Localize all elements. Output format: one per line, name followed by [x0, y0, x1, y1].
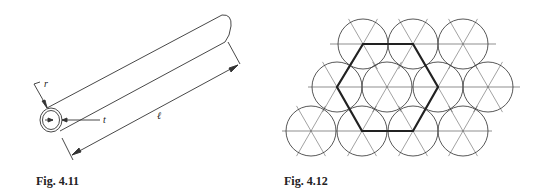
length-ext-line-2: [228, 42, 240, 64]
figure-caption: Fig. 4.12: [284, 174, 328, 189]
arrow-icon: [229, 65, 238, 72]
arrow-icon: [48, 118, 53, 122]
arrow-icon: [42, 100, 47, 108]
thickness-label: t: [103, 114, 106, 125]
length-ext-line-1: [62, 138, 73, 160]
figure-caption: Fig. 4.11: [36, 174, 79, 189]
length-dimension-line: [72, 65, 238, 155]
tube-top-edge: [47, 15, 222, 108]
radius-leader-tick: [34, 82, 40, 84]
tube-diagram: [34, 15, 240, 160]
arrow-icon: [72, 148, 81, 155]
tube-far-end: [222, 15, 231, 42]
arrow-icon: [62, 118, 67, 122]
hex-packing-diagram: [282, 19, 520, 156]
figure-canvas: [0, 0, 545, 192]
tube-bottom-edge: [60, 42, 225, 131]
length-label: ℓ: [157, 110, 161, 121]
radius-label: r: [44, 78, 48, 89]
